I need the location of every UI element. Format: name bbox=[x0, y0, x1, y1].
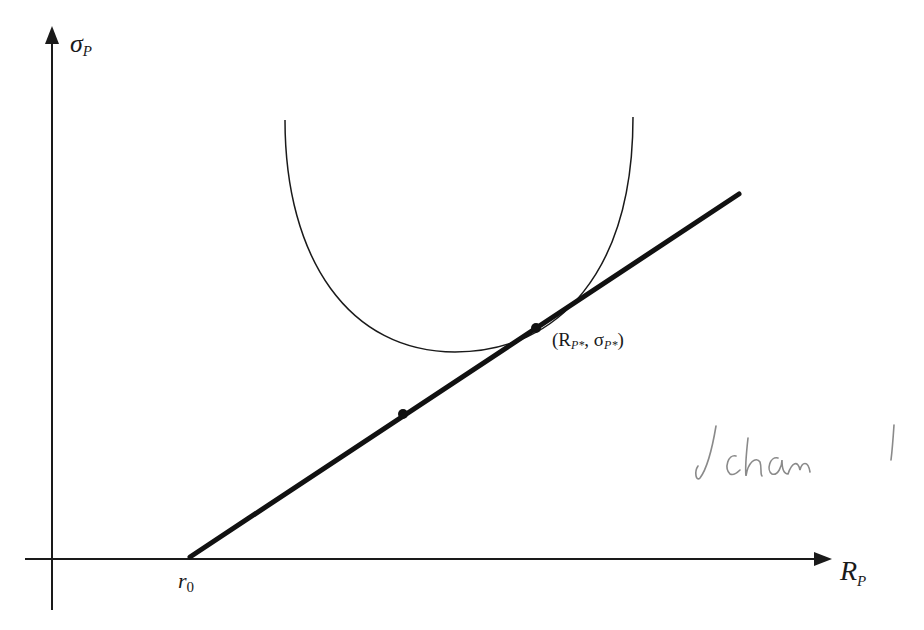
efficient-frontier-curve bbox=[285, 117, 633, 352]
capital-market-line bbox=[190, 194, 739, 557]
tangent-point bbox=[531, 323, 541, 333]
x-axis-label: RP bbox=[839, 555, 866, 589]
diagram-canvas: σP RP r0 (RP*, σP*) Schön ! bbox=[0, 0, 924, 630]
tangent-point-label: (RP*, σP*) bbox=[552, 329, 624, 352]
y-axis-label: σP bbox=[70, 29, 92, 59]
x-axis-arrow-icon bbox=[814, 552, 832, 566]
portfolio-point bbox=[398, 409, 408, 419]
handwritten-annotation bbox=[696, 425, 894, 479]
y-axis-arrow-icon bbox=[45, 26, 59, 44]
r0-label: r0 bbox=[178, 568, 194, 595]
